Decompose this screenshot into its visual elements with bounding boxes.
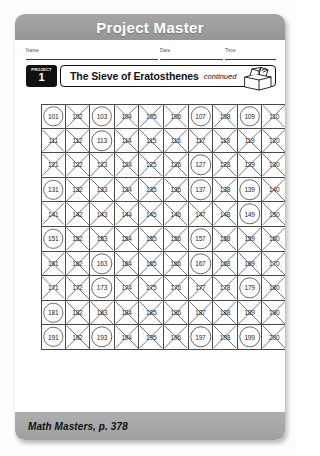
sieve-cell[interactable]: 170 [262,252,285,277]
sieve-cell[interactable]: 107 [189,104,214,129]
sieve-cell[interactable]: 192 [66,325,91,350]
sieve-cell[interactable]: 120 [262,129,285,154]
sieve-cell[interactable]: 116 [164,129,189,154]
sieve-cell[interactable]: 193 [90,325,115,350]
sieve-cell[interactable]: 105 [139,104,164,129]
sieve-cell[interactable]: 119 [238,129,263,154]
sieve-cell[interactable]: 160 [262,227,285,252]
sieve-cell[interactable]: 148 [213,202,238,227]
sieve-cell[interactable]: 141 [41,202,66,227]
sieve-cell[interactable]: 156 [164,227,189,252]
sieve-cell[interactable]: 127 [189,153,214,178]
sieve-cell[interactable]: 102 [66,104,91,129]
sieve-cell[interactable]: 183 [90,301,115,326]
sieve-cell[interactable]: 138 [213,178,238,203]
sieve-cell[interactable]: 110 [262,104,285,129]
sieve-cell[interactable]: 187 [189,301,214,326]
sieve-cell[interactable]: 197 [189,325,214,350]
sieve-cell[interactable]: 167 [189,252,214,277]
sieve-cell[interactable]: 186 [164,301,189,326]
sieve-cell[interactable]: 159 [238,227,263,252]
sieve-cell[interactable]: 114 [115,129,140,154]
sieve-cell[interactable]: 104 [115,104,140,129]
sieve-cell[interactable]: 142 [66,202,91,227]
sieve-cell[interactable]: 177 [189,276,214,301]
sieve-cell[interactable]: 132 [66,178,91,203]
sieve-cell[interactable]: 133 [90,178,115,203]
sieve-cell[interactable]: 149 [238,202,263,227]
sieve-cell[interactable]: 137 [189,178,214,203]
sieve-cell[interactable]: 169 [238,252,263,277]
sieve-cell[interactable]: 129 [238,153,263,178]
sieve-cell[interactable]: 108 [213,104,238,129]
sieve-cell[interactable]: 151 [41,227,66,252]
sieve-cell[interactable]: 179 [238,276,263,301]
sieve-cell[interactable]: 109 [238,104,263,129]
sieve-cell[interactable]: 152 [66,227,91,252]
sieve-cell[interactable]: 198 [213,325,238,350]
sieve-cell[interactable]: 171 [41,276,66,301]
sieve-cell[interactable]: 175 [139,276,164,301]
sieve-cell[interactable]: 181 [41,301,66,326]
sieve-cell[interactable]: 143 [90,202,115,227]
sieve-cell[interactable]: 168 [213,252,238,277]
sieve-cell[interactable]: 134 [115,178,140,203]
sieve-cell[interactable]: 130 [262,153,285,178]
sieve-cell[interactable]: 191 [41,325,66,350]
sieve-cell[interactable]: 131 [41,178,66,203]
sieve-cell[interactable]: 128 [213,153,238,178]
sieve-cell[interactable]: 113 [90,129,115,154]
sieve-cell[interactable]: 135 [139,178,164,203]
sieve-cell[interactable]: 101 [41,104,66,129]
sieve-cell[interactable]: 164 [115,252,140,277]
sieve-cell[interactable]: 125 [139,153,164,178]
sieve-cell[interactable]: 184 [115,301,140,326]
sieve-cell[interactable]: 121 [41,153,66,178]
sieve-number-grid[interactable]: 1011021031041051061071081091101111121131… [41,104,285,350]
sieve-cell[interactable]: 180 [262,276,285,301]
sieve-cell[interactable]: 157 [189,227,214,252]
sieve-cell[interactable]: 144 [115,202,140,227]
sieve-cell[interactable]: 178 [213,276,238,301]
name-field[interactable]: Name [26,47,158,60]
sieve-cell[interactable]: 199 [238,325,263,350]
sieve-cell[interactable]: 163 [90,252,115,277]
sieve-cell[interactable]: 145 [139,202,164,227]
sieve-cell[interactable]: 122 [66,153,91,178]
sieve-cell[interactable]: 139 [238,178,263,203]
sieve-cell[interactable]: 158 [213,227,238,252]
sieve-cell[interactable]: 176 [164,276,189,301]
sieve-cell[interactable]: 118 [213,129,238,154]
sieve-cell[interactable]: 162 [66,252,91,277]
sieve-cell[interactable]: 150 [262,202,285,227]
sieve-cell[interactable]: 126 [164,153,189,178]
sieve-cell[interactable]: 146 [164,202,189,227]
sieve-cell[interactable]: 112 [66,129,91,154]
sieve-cell[interactable]: 111 [41,129,66,154]
sieve-cell[interactable]: 172 [66,276,91,301]
sieve-cell[interactable]: 200 [262,325,285,350]
sieve-cell[interactable]: 106 [164,104,189,129]
sieve-cell[interactable]: 173 [90,276,115,301]
sieve-cell[interactable]: 154 [115,227,140,252]
sieve-cell[interactable]: 195 [139,325,164,350]
sieve-cell[interactable]: 174 [115,276,140,301]
sieve-cell[interactable]: 103 [90,104,115,129]
date-field[interactable]: Date [160,47,223,60]
sieve-cell[interactable]: 124 [115,153,140,178]
sieve-cell[interactable]: 115 [139,129,164,154]
sieve-cell[interactable]: 189 [238,301,263,326]
sieve-cell[interactable]: 147 [189,202,214,227]
sieve-cell[interactable]: 123 [90,153,115,178]
sieve-cell[interactable]: 194 [115,325,140,350]
sieve-cell[interactable]: 166 [164,252,189,277]
sieve-cell[interactable]: 153 [90,227,115,252]
sieve-cell[interactable]: 140 [262,178,285,203]
sieve-cell[interactable]: 185 [139,301,164,326]
sieve-cell[interactable]: 188 [213,301,238,326]
sieve-cell[interactable]: 161 [41,252,66,277]
sieve-cell[interactable]: 155 [139,227,164,252]
time-field[interactable]: Time [225,47,276,60]
sieve-cell[interactable]: 196 [164,325,189,350]
sieve-cell[interactable]: 117 [189,129,214,154]
